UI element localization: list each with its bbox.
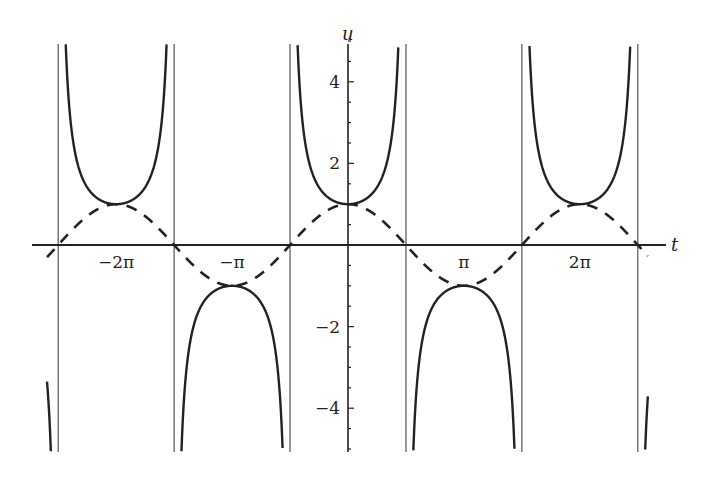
u-axis-label: u xyxy=(342,23,354,44)
t-tick-label: 2π xyxy=(569,252,591,272)
t-tick-label: −2π xyxy=(98,252,134,272)
axes xyxy=(32,41,666,452)
t-axis-label: t xyxy=(671,234,679,255)
sec-cos-plot: 42−2−4−2π−ππ2π t u xyxy=(0,0,705,481)
u-tick-label: 2 xyxy=(329,153,340,173)
u-tick-label: 4 xyxy=(329,72,340,92)
t-tick-label: −π xyxy=(219,252,244,272)
t-tick-label: π xyxy=(458,252,469,272)
u-tick-label: −4 xyxy=(315,398,340,418)
u-tick-label: −2 xyxy=(315,317,340,337)
